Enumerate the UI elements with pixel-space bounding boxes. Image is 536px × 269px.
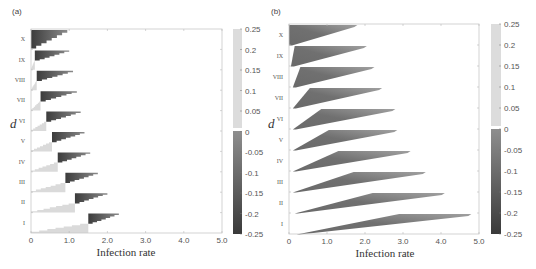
colorbar-tick-label: -0.15 [504,188,523,197]
colorbar-tick-label: 0.15 [245,66,261,75]
panel-b-colorbar: 0.250.20.150.10.050-0.05-0.1-0.15-0.2-0.… [491,20,523,239]
panel-b-label: (b) [271,7,281,16]
colorbar-tick-label: -0.25 [245,230,264,239]
colorbar-tick-label: 0.25 [504,20,520,29]
row-label: IV [19,159,26,165]
row-label: II [279,200,283,206]
row-label: V [279,137,284,143]
x-tick-label: 2.0 [102,236,114,245]
row-label: IX [277,53,284,59]
panel-b-x-axis-label: Infection rate [356,247,415,259]
colorbar-tick-label: -0.2 [245,210,259,219]
negative-region [37,71,73,81]
row-label: I [281,221,283,227]
negative-region [293,172,426,192]
panel-a: (a) 01.02.03.04.05.0 XIXVIIIVIIVIVIVIIII… [10,7,264,258]
x-tick-label: 2.0 [359,237,371,246]
colorbar-tick-label: 0.1 [504,83,516,92]
x-tick-label: 4.0 [435,237,447,246]
row-label: X [21,36,26,42]
negative-region [295,193,445,213]
negative-region [88,214,119,224]
colorbar-tick-label: -0.1 [504,167,518,176]
row-label: VI [19,118,25,124]
colorbar-tick-label: 0.25 [245,25,261,34]
row-label: VII [275,95,283,101]
negative-region [35,50,69,60]
row-label: IX [19,57,26,63]
negative-region [293,67,375,87]
panel-a-label: (a) [12,7,22,16]
colorbar-tick-label: -0.05 [504,146,523,155]
row-label: I [23,220,25,226]
x-tick-label: 0 [287,237,292,246]
panel-b: (b) 01.02.03.04.05.0 XIXVIIIVIIVIVIVIIII… [268,7,523,259]
colorbar-tick-label: 0 [245,128,250,137]
row-label: VI [277,116,283,122]
panel-a-colorbar: 0.250.20.150.10.050-0.05-0.1-0.15-0.2-0.… [233,25,264,239]
positive-region [31,163,58,172]
x-tick-label: 0 [29,236,34,245]
negative-region [52,132,84,142]
colorbar-tick-label: -0.15 [245,189,264,198]
colorbar-tick-label: 0 [504,125,509,134]
row-label: IV [277,158,284,164]
figure: (a) 01.02.03.04.05.0 XIXVIIIVIIVIVIVIIII… [0,0,536,269]
panel-a-frame [31,29,222,233]
row-label: VII [17,97,25,103]
positive-region [31,224,88,233]
negative-region [31,30,67,48]
positive-region [31,122,46,131]
row-label: X [279,32,284,38]
row-label: VIII [15,77,25,83]
negative-region [46,112,80,122]
positive-region [31,183,65,192]
negative-region [293,151,411,171]
row-label: III [19,179,25,185]
positive-region [31,203,75,212]
x-tick-label: 3.0 [140,236,152,245]
panel-a-data [31,30,119,233]
colorbar-tick-label: 0.1 [245,87,257,96]
colorbar-tick-label: -0.05 [245,148,264,157]
x-tick-label: 5.0 [473,237,485,246]
row-label: VIII [273,74,283,80]
x-tick-label: 3.0 [397,237,409,246]
x-tick-label: 1.0 [321,237,333,246]
row-label: III [277,179,283,185]
negative-region [291,46,367,66]
negative-region [41,91,77,101]
positive-region [31,142,52,151]
x-tick-label: 1.0 [64,236,76,245]
negative-region [65,173,97,183]
panel-a-x-axis-label: Infection rate [97,246,156,258]
negative-region [289,25,357,45]
row-label: II [21,199,25,205]
colorbar-tick-label: -0.1 [245,169,259,178]
negative-region [58,152,90,162]
colorbar-tick-label: 0.2 [504,41,516,50]
colorbar-tick-label: 0.05 [504,104,520,113]
positive-region [31,61,35,70]
colorbar-tick-label: -0.2 [504,209,518,218]
negative-region [293,88,382,108]
negative-region [75,193,107,203]
x-tick-label: 5.0 [216,236,228,245]
colorbar-tick-label: -0.25 [504,230,523,239]
positive-region [31,101,41,110]
negative-region [293,109,396,129]
positive-region [31,81,37,90]
negative-region [297,214,472,234]
panel-b-y-axis-label: d [268,116,275,131]
colorbar-tick-label: 0.2 [245,46,257,55]
negative-region [293,130,398,150]
row-label: V [21,138,26,144]
panel-a-y-axis-label: d [10,116,17,131]
panel-b-data [289,25,471,234]
colorbar-tick-label: 0.05 [245,107,261,116]
colorbar-tick-label: 0.15 [504,62,520,71]
x-tick-label: 4.0 [178,236,190,245]
